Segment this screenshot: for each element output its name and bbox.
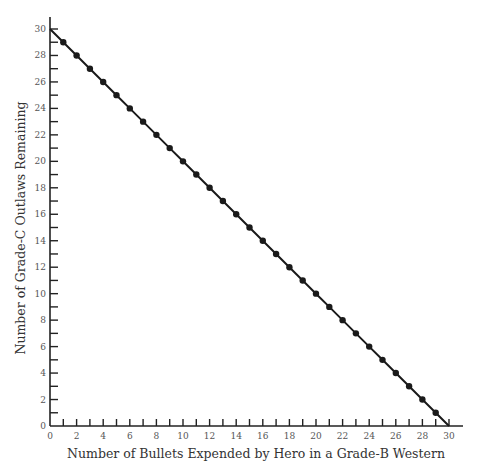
y-tick-label: 0: [40, 421, 46, 431]
x-tick-label: 16: [257, 431, 269, 441]
tick-labels: 0246810121416182022242628300246810121416…: [35, 24, 455, 441]
data-point-marker: [419, 396, 425, 402]
data-point-marker: [140, 118, 146, 124]
x-tick-label: 30: [443, 431, 455, 441]
data-point-marker: [100, 79, 106, 85]
data-point-marker: [206, 185, 212, 191]
x-tick-label: 24: [363, 431, 375, 441]
data-point-marker: [326, 304, 332, 310]
data-point-marker: [366, 343, 372, 349]
data-series: [50, 29, 449, 426]
data-point-marker: [433, 410, 439, 416]
x-tick-label: 0: [47, 431, 53, 441]
y-tick-label: 12: [35, 262, 46, 272]
y-tick-label: 6: [40, 342, 46, 352]
data-point-marker: [260, 238, 266, 244]
y-tick-label: 10: [35, 289, 47, 299]
data-point-marker: [193, 171, 199, 177]
x-tick-label: 10: [177, 431, 189, 441]
y-tick-label: 30: [35, 24, 47, 34]
x-tick-label: 6: [127, 431, 133, 441]
x-tick-label: 14: [230, 431, 242, 441]
data-point-marker: [60, 39, 66, 45]
y-tick-label: 24: [35, 103, 47, 113]
x-tick-label: 12: [204, 431, 215, 441]
data-point-marker: [393, 370, 399, 376]
x-axis-title: Number of Bullets Expended by Hero in a …: [67, 446, 445, 461]
data-point-marker: [73, 52, 79, 58]
x-tick-label: 2: [74, 431, 80, 441]
x-tick-label: 20: [310, 431, 322, 441]
y-tick-label: 22: [35, 130, 46, 140]
y-tick-label: 14: [35, 236, 47, 246]
y-tick-label: 8: [40, 315, 46, 325]
data-point-marker: [300, 277, 306, 283]
data-point-marker: [246, 224, 252, 230]
y-tick-label: 20: [35, 156, 47, 166]
x-tick-label: 4: [100, 431, 106, 441]
y-tick-label: 4: [40, 368, 46, 378]
line-chart: 0246810121416182022242628300246810121416…: [0, 0, 480, 475]
x-tick-label: 8: [154, 431, 160, 441]
axes: [50, 17, 463, 426]
data-point-marker: [220, 198, 226, 204]
y-tick-label: 18: [35, 183, 47, 193]
data-point-marker: [113, 92, 119, 98]
data-point-marker: [273, 251, 279, 257]
x-tick-label: 28: [417, 431, 429, 441]
data-point-marker: [167, 145, 173, 151]
data-point-marker: [233, 211, 239, 217]
y-axis-title: Number of Grade-C Outlaws Remaining: [13, 102, 28, 355]
x-tick-label: 26: [390, 431, 402, 441]
data-point-marker: [180, 158, 186, 164]
data-point-marker: [286, 264, 292, 270]
data-point-marker: [87, 66, 93, 72]
y-tick-label: 28: [35, 50, 47, 60]
y-tick-label: 16: [35, 209, 47, 219]
data-point-marker: [406, 383, 412, 389]
data-point-marker: [127, 105, 133, 111]
y-tick-label: 2: [40, 395, 46, 405]
data-point-marker: [153, 132, 159, 138]
data-point-marker: [339, 317, 345, 323]
data-point-marker: [353, 330, 359, 336]
data-point-marker: [379, 357, 385, 363]
data-point-marker: [313, 290, 319, 296]
x-tick-label: 18: [284, 431, 296, 441]
x-tick-label: 22: [337, 431, 348, 441]
y-tick-label: 26: [35, 77, 47, 87]
